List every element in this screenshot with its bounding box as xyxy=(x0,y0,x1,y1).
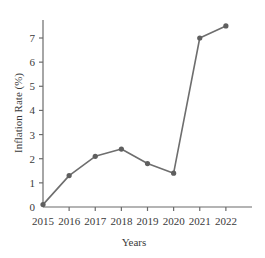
x-axis-tick-label: 2021 xyxy=(189,215,211,227)
y-axis-tick-label: 0 xyxy=(30,201,36,213)
y-axis-tick-label: 2 xyxy=(30,153,36,165)
data-point-marker xyxy=(40,202,45,207)
y-axis-tick-label: 5 xyxy=(30,80,36,92)
y-axis-tick-label: 3 xyxy=(30,129,36,141)
data-point-marker xyxy=(67,173,72,178)
data-point-marker xyxy=(145,161,150,166)
y-axis-tick-label: 4 xyxy=(30,104,36,116)
x-axis-title: Years xyxy=(122,236,147,248)
y-axis-tick-label: 1 xyxy=(30,177,36,189)
x-axis-tick-label: 2019 xyxy=(137,215,160,227)
x-axis-tick-label: 2015 xyxy=(32,215,55,227)
y-axis-tick-label: 6 xyxy=(30,56,36,68)
x-axis-tick-label: 2017 xyxy=(84,215,107,227)
x-axis-tick-label: 2022 xyxy=(215,215,237,227)
data-point-marker xyxy=(197,35,202,40)
data-point-marker xyxy=(119,146,124,151)
data-point-marker xyxy=(223,23,228,28)
chart-canvas: 01234567 Inflation Rate (%) 201520162017… xyxy=(0,0,265,258)
y-axis-title: Inflation Rate (%) xyxy=(12,73,25,153)
data-point-marker xyxy=(93,154,98,159)
data-point-marker xyxy=(171,171,176,176)
inflation-rate-line-chart: 01234567 Inflation Rate (%) 201520162017… xyxy=(0,0,265,258)
x-axis-tick-label: 2020 xyxy=(163,215,186,227)
y-axis-tick-label: 7 xyxy=(30,32,36,44)
x-axis-tick-label: 2016 xyxy=(58,215,81,227)
x-axis-tick-label: 2018 xyxy=(110,215,133,227)
